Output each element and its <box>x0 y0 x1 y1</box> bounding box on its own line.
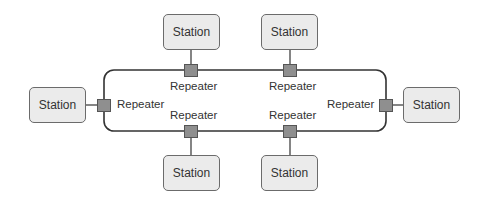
station-left: Station <box>29 87 86 123</box>
station-right: Station <box>403 87 460 123</box>
station-label: Station <box>413 98 450 112</box>
station-label: Station <box>173 25 210 39</box>
repeater-label-top-right: Repeater <box>269 80 316 92</box>
repeater-bottom-right <box>283 125 297 138</box>
repeater-label-right: Repeater <box>327 98 374 110</box>
station-label: Station <box>271 166 308 180</box>
station-top-left: Station <box>163 14 220 50</box>
repeater-top-left <box>184 64 198 77</box>
station-label: Station <box>173 166 210 180</box>
repeater-label-left: Repeater <box>117 98 164 110</box>
repeater-bottom-left <box>184 125 198 138</box>
repeater-label-bottom-right: Repeater <box>269 109 316 121</box>
ring-network-diagram: Station Station Station Station Station … <box>0 0 483 206</box>
repeater-top-right <box>283 64 297 77</box>
station-bottom-right: Station <box>261 155 318 191</box>
station-bottom-left: Station <box>163 155 220 191</box>
station-top-right: Station <box>261 14 318 50</box>
station-label: Station <box>39 98 76 112</box>
repeater-label-top-left: Repeater <box>170 80 217 92</box>
repeater-left <box>97 99 111 112</box>
station-label: Station <box>271 25 308 39</box>
repeater-label-bottom-left: Repeater <box>170 109 217 121</box>
repeater-right <box>379 99 393 112</box>
